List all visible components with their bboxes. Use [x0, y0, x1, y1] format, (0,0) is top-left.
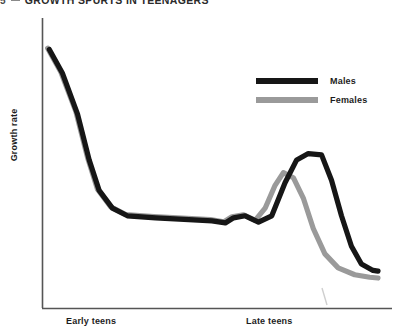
- growth-spurts-chart: 5 GROWTH SPURTS IN TEENAGERS Growth rate…: [0, 0, 399, 335]
- legend-item-females: Females: [256, 95, 367, 105]
- legend-swatch-males-icon: [256, 78, 318, 84]
- legend-swatch-females-icon: [256, 97, 318, 103]
- legend-label-females: Females: [330, 95, 367, 105]
- chart-legend: Males Females: [256, 76, 367, 105]
- legend-item-males: Males: [256, 76, 367, 86]
- y-axis-label: Growth rate: [9, 97, 19, 173]
- legend-label-males: Males: [330, 76, 356, 86]
- scan-artifact-mark: [322, 288, 327, 305]
- x-axis-label-late-teens: Late teens: [246, 316, 293, 326]
- plot-area: [0, 0, 399, 335]
- x-axis-label-early-teens: Early teens: [66, 316, 116, 326]
